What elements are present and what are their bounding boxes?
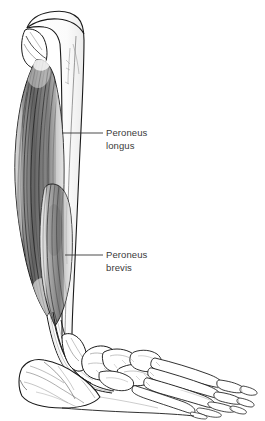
anatomical-figure: Peroneuslongus Peroneusbrevis — [0, 0, 265, 421]
label-peroneus-brevis: Peroneusbrevis — [106, 249, 147, 274]
label-peroneus-longus: Peroneuslongus — [106, 127, 147, 152]
label-peroneus-brevis-line2: brevis — [106, 262, 132, 273]
label-peroneus-longus-line2: longus — [106, 140, 135, 151]
anatomy-illustration — [0, 0, 265, 421]
label-peroneus-brevis-line1: Peroneus — [106, 249, 147, 260]
label-peroneus-longus-line1: Peroneus — [106, 127, 147, 138]
